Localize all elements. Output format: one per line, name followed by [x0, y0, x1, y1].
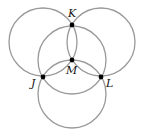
point-j [41, 75, 46, 80]
point-l [99, 75, 104, 80]
label-l: L [105, 77, 113, 90]
label-k: K [67, 7, 77, 20]
label-j: J [29, 77, 36, 90]
geometry-diagram: K M J L [0, 0, 150, 140]
point-k [70, 23, 75, 28]
point-m [70, 58, 75, 63]
label-m: M [65, 64, 78, 77]
